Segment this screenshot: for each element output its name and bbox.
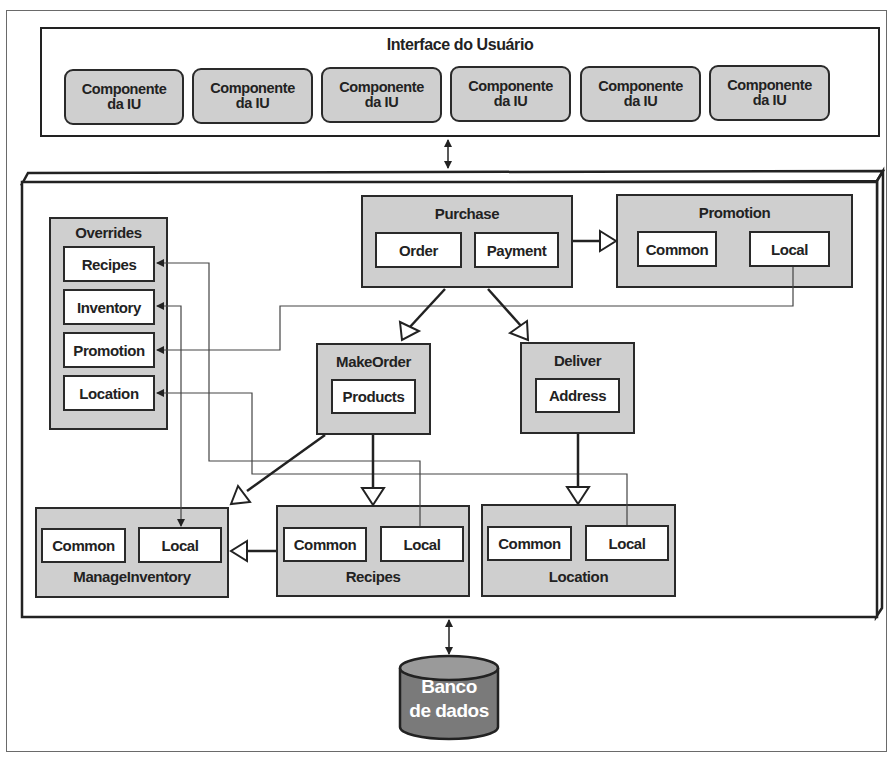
ui-component-line1: Componente <box>339 80 424 95</box>
ui-component-line1: Componente <box>468 79 553 94</box>
manageinventory-part-local[interactable]: Local <box>138 527 222 563</box>
overrides-title: Overrides <box>49 224 168 241</box>
recipes-part-common[interactable]: Common <box>283 527 367 562</box>
promotion-part-common[interactable]: Common <box>637 231 717 267</box>
override-item-recipes[interactable]: Recipes <box>63 246 155 282</box>
makeorder-part-products[interactable]: Products <box>331 379 416 414</box>
purchase-part-order[interactable]: Order <box>375 232 462 268</box>
recipes-part-local[interactable]: Local <box>380 526 464 562</box>
ui-component-line2: da IU <box>598 94 683 109</box>
recipes-title: Recipes <box>276 568 470 585</box>
override-item-location[interactable]: Location <box>63 375 155 411</box>
ui-component[interactable]: Componenteda IU <box>580 66 701 122</box>
database[interactable]: Banco de dados <box>400 676 498 736</box>
ui-component[interactable]: Componenteda IU <box>192 68 313 124</box>
ui-component[interactable]: Componenteda IU <box>450 66 571 122</box>
promotion-title: Promotion <box>616 204 853 221</box>
ui-component[interactable]: Componenteda IU <box>709 65 830 121</box>
ui-component[interactable]: Componenteda IU <box>64 69 184 125</box>
ui-component-line2: da IU <box>727 93 812 108</box>
ui-component-line1: Componente <box>598 79 683 94</box>
override-item-inventory[interactable]: Inventory <box>63 289 155 325</box>
ui-component-line2: da IU <box>468 94 553 109</box>
override-item-promotion[interactable]: Promotion <box>63 332 155 368</box>
manageinventory-part-common[interactable]: Common <box>41 528 126 563</box>
ui-component-line2: da IU <box>210 96 295 111</box>
purchase-title: Purchase <box>361 205 573 222</box>
ui-component-line1: Componente <box>727 78 812 93</box>
promotion-part-local[interactable]: Local <box>749 231 830 267</box>
ui-component-line2: da IU <box>339 95 424 110</box>
ui-component[interactable]: Componenteda IU <box>321 67 442 123</box>
makeorder-title: MakeOrder <box>316 353 431 370</box>
ui-component-line1: Componente <box>210 81 295 96</box>
location-title: Location <box>481 568 676 585</box>
manageinventory-title: ManageInventory <box>35 568 229 585</box>
ui-layer-title: Interface do Usuário <box>40 36 880 54</box>
ui-component-line2: da IU <box>82 97 167 112</box>
database-label-line2: de dados <box>400 700 498 722</box>
deliver-part-address[interactable]: Address <box>535 378 620 413</box>
location-part-local[interactable]: Local <box>585 525 669 561</box>
ui-component-line1: Componente <box>82 82 167 97</box>
location-part-common[interactable]: Common <box>487 526 572 561</box>
database-label-line1: Banco <box>400 676 498 698</box>
deliver-title: Deliver <box>520 352 635 369</box>
purchase-part-payment[interactable]: Payment <box>474 232 559 268</box>
